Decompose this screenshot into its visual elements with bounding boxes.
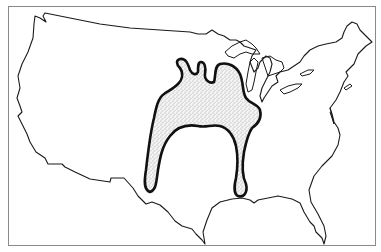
us-outline-map bbox=[0, 0, 381, 252]
map-frame bbox=[0, 0, 381, 252]
